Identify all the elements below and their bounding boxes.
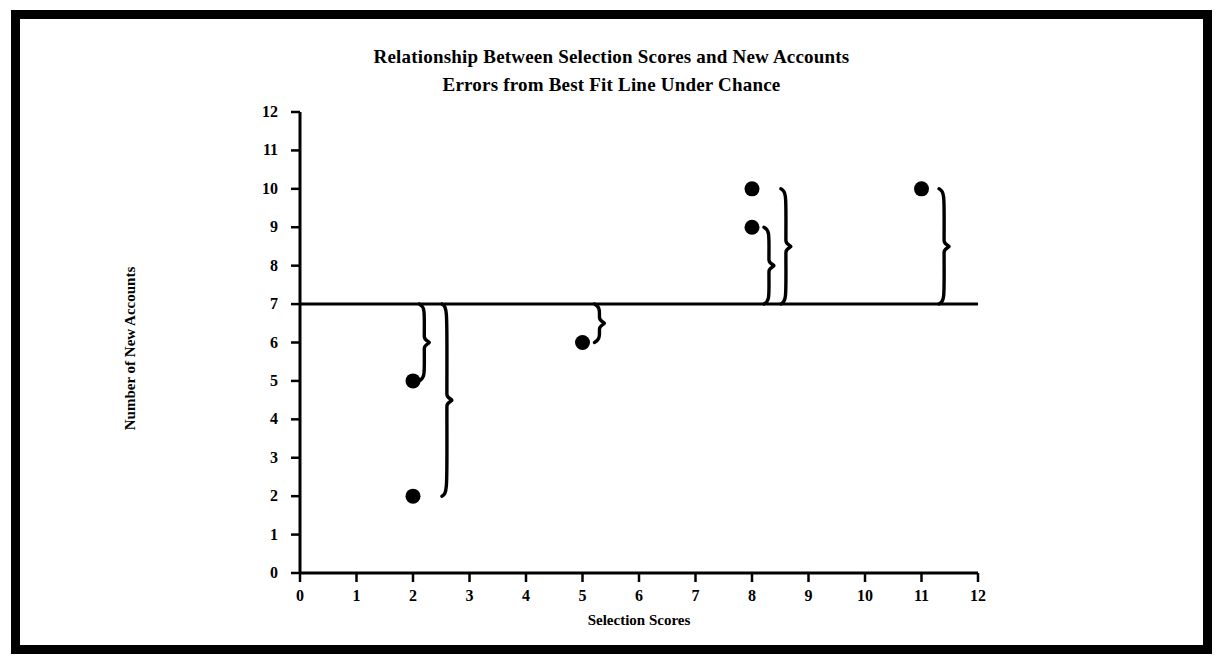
x-tick-label: 2	[400, 588, 426, 604]
y-tick-label: 2	[252, 488, 278, 504]
plot-svg	[0, 0, 1223, 668]
error-brace	[442, 304, 452, 496]
data-point-marker	[406, 489, 421, 504]
plot-area: Relationship Between Selection Scores an…	[0, 0, 1223, 668]
x-tick-label: 10	[852, 588, 878, 604]
x-tick-label: 12	[965, 588, 991, 604]
data-point-marker	[575, 335, 590, 350]
x-tick-label: 5	[570, 588, 596, 604]
y-tick-label: 10	[252, 181, 278, 197]
x-tick-label: 8	[739, 588, 765, 604]
error-brace	[939, 189, 949, 304]
x-tick-label: 4	[513, 588, 539, 604]
error-brace	[419, 304, 429, 381]
data-point-marker	[745, 220, 760, 235]
data-points-group	[406, 181, 930, 503]
axes-group	[291, 112, 978, 582]
error-braces-group	[419, 189, 949, 496]
y-tick-label: 3	[252, 450, 278, 466]
y-tick-label: 8	[252, 258, 278, 274]
x-tick-label: 3	[457, 588, 483, 604]
x-tick-label: 1	[344, 588, 370, 604]
data-point-marker	[406, 373, 421, 388]
error-brace	[594, 304, 604, 342]
y-tick-label: 9	[252, 219, 278, 235]
y-tick-label: 7	[252, 296, 278, 312]
x-tick-label: 9	[796, 588, 822, 604]
y-tick-label: 0	[252, 565, 278, 581]
figure-container: Relationship Between Selection Scores an…	[0, 0, 1223, 668]
data-point-marker	[914, 181, 929, 196]
x-tick-label: 7	[683, 588, 709, 604]
x-tick-label: 6	[626, 588, 652, 604]
y-tick-label: 5	[252, 373, 278, 389]
data-point-marker	[745, 181, 760, 196]
y-tick-label: 12	[252, 104, 278, 120]
y-tick-label: 11	[252, 142, 278, 158]
y-tick-label: 1	[252, 527, 278, 543]
error-brace	[781, 189, 791, 304]
x-tick-label: 11	[909, 588, 935, 604]
y-tick-label: 6	[252, 335, 278, 351]
error-brace	[764, 227, 774, 304]
y-tick-label: 4	[252, 411, 278, 427]
x-tick-label: 0	[287, 588, 313, 604]
